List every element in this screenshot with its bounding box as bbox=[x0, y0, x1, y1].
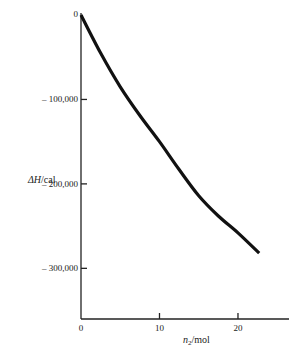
x-axis-label: n2/mol bbox=[183, 334, 210, 347]
series-line bbox=[81, 15, 259, 253]
x-ticks: 01020 bbox=[79, 313, 243, 333]
chart: 01020 0– 100,000– 200,000– 300,000 ΔH/ca… bbox=[0, 0, 302, 351]
axes bbox=[81, 13, 289, 319]
y-axis-label-unit: /cal bbox=[41, 174, 56, 185]
y-tick-label: 0 bbox=[74, 9, 79, 19]
x-tick-label: 10 bbox=[155, 323, 165, 333]
series bbox=[81, 15, 259, 253]
y-axis-label: ΔH/cal bbox=[27, 174, 56, 185]
y-tick-label: – 100,000 bbox=[41, 94, 79, 104]
x-axis-label-unit: /mol bbox=[192, 334, 211, 345]
y-tick-label: – 300,000 bbox=[41, 263, 79, 273]
x-tick-label: 20 bbox=[233, 323, 243, 333]
y-axis-label-var: ΔH bbox=[27, 174, 42, 185]
x-tick-label: 0 bbox=[79, 323, 84, 333]
y-ticks: 0– 100,000– 200,000– 300,000 bbox=[41, 9, 87, 273]
